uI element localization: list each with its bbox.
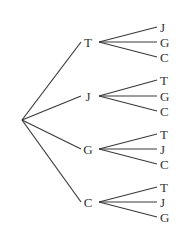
leaf-label: G <box>160 35 169 50</box>
leaf-label: T <box>160 73 168 88</box>
leaf-label: T <box>160 127 168 142</box>
leaf-label: C <box>160 157 169 172</box>
node-label: J <box>85 89 90 104</box>
tree-diagram: TJGCJTGCGTJCCTJG <box>0 0 181 246</box>
leaf-label: C <box>160 104 169 119</box>
node-label: G <box>83 142 92 157</box>
leaf-label: T <box>160 180 168 195</box>
edge-T-to-J <box>99 27 157 42</box>
edge-G-to-T <box>99 134 157 149</box>
tree-diagram-canvas: TJGCJTGCGTJCCTJG <box>0 0 181 246</box>
node-label: C <box>84 195 93 210</box>
leaf-label: J <box>160 195 165 210</box>
edge-J-to-T <box>99 80 157 96</box>
edge-root-to-C <box>22 120 81 202</box>
edge-C-to-T <box>99 187 157 202</box>
leaf-label: J <box>160 20 165 35</box>
edge-G-to-C <box>99 149 157 164</box>
leaf-label: G <box>160 89 169 104</box>
leaf-label: J <box>160 142 165 157</box>
node-label: T <box>84 35 92 50</box>
leaf-label: G <box>160 210 169 225</box>
edge-T-to-C <box>99 42 157 57</box>
leaf-label: C <box>160 50 169 65</box>
edge-J-to-C <box>99 96 157 111</box>
edge-C-to-G <box>99 202 157 217</box>
edge-root-to-G <box>22 120 81 149</box>
